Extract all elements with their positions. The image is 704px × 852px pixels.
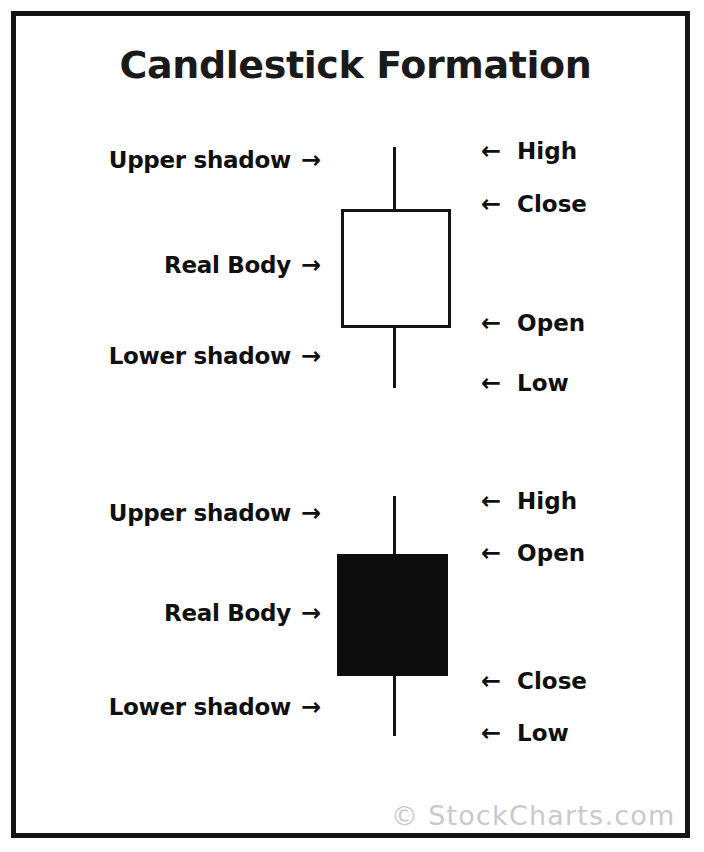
arrow-right-icon: → — [301, 601, 321, 625]
candle-1-label-real-body: Real Body→ — [46, 253, 321, 277]
arrow-right-icon: → — [301, 253, 321, 277]
candle-2-upper-shadow-text: Upper shadow — [109, 500, 291, 526]
candle-2-label-close: ←Close — [481, 669, 587, 693]
watermark-text: StockCharts.com — [428, 800, 675, 831]
watermark: ©StockCharts.com — [391, 800, 675, 831]
candle-2-open-text: Open — [517, 540, 585, 566]
candle-1-label-lower-shadow: Lower shadow→ — [46, 344, 321, 368]
copyright-icon: © — [391, 800, 419, 831]
arrow-left-icon: ← — [481, 192, 501, 216]
arrow-left-icon: ← — [481, 541, 501, 565]
arrow-left-icon: ← — [481, 139, 501, 163]
candle-2-label-lower-shadow: Lower shadow→ — [46, 695, 321, 719]
candle-1-upper-shadow-text: Upper shadow — [109, 147, 291, 173]
candle-1-low-text: Low — [517, 370, 569, 396]
candle-2-label-low: ←Low — [481, 721, 569, 745]
arrow-right-icon: → — [301, 148, 321, 172]
arrow-right-icon: → — [301, 344, 321, 368]
candle-2-lower-shadow-text: Lower shadow — [109, 694, 291, 720]
candle-1-real-body — [341, 209, 451, 328]
candle-2-label-high: ←High — [481, 489, 577, 513]
candle-1-label-open: ←Open — [481, 311, 585, 335]
arrow-left-icon: ← — [481, 669, 501, 693]
candle-1-label-close: ←Close — [481, 192, 587, 216]
candle-2-label-upper-shadow: Upper shadow→ — [46, 501, 321, 525]
page-title: Candlestick Formation — [16, 43, 695, 87]
candle-1-high-text: High — [517, 138, 577, 164]
candle-2-real-body — [337, 554, 448, 676]
candle-1-close-text: Close — [517, 191, 587, 217]
candle-2-label-open: ←Open — [481, 541, 585, 565]
arrow-left-icon: ← — [481, 721, 501, 745]
candle-1-real-body-text: Real Body — [164, 252, 291, 278]
candle-2-real-body-text: Real Body — [164, 600, 291, 626]
arrow-left-icon: ← — [481, 311, 501, 335]
arrow-right-icon: → — [301, 695, 321, 719]
candle-2-label-real-body: Real Body→ — [46, 601, 321, 625]
candlestick-formation-diagram: Candlestick Formation Upper shadow→ Real… — [0, 0, 704, 852]
candle-1-open-text: Open — [517, 310, 585, 336]
candle-2-high-text: High — [517, 488, 577, 514]
diagram-border-frame: Candlestick Formation Upper shadow→ Real… — [11, 11, 690, 838]
arrow-right-icon: → — [301, 501, 321, 525]
candle-1-label-upper-shadow: Upper shadow→ — [46, 148, 321, 172]
candle-2-low-text: Low — [517, 720, 569, 746]
candle-1-label-low: ←Low — [481, 371, 569, 395]
candle-1-lower-shadow-text: Lower shadow — [109, 343, 291, 369]
candle-1-label-high: ←High — [481, 139, 577, 163]
candle-2-close-text: Close — [517, 668, 587, 694]
arrow-left-icon: ← — [481, 489, 501, 513]
arrow-left-icon: ← — [481, 371, 501, 395]
